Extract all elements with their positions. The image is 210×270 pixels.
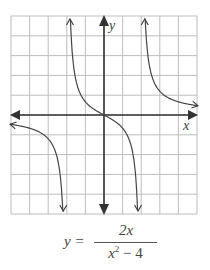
formula-numerator: 2x — [106, 222, 146, 239]
curve-branch-1 — [10, 124, 63, 211]
y-axis-label: y — [107, 18, 116, 33]
y-axis-down-arrow-icon — [99, 204, 109, 215]
graph: y x — [0, 0, 210, 222]
curve-arrow-icon — [141, 19, 148, 25]
curve-branch-3 — [145, 19, 198, 106]
curve-arrow-icon — [60, 205, 67, 211]
denominator-rest: − 4 — [119, 245, 142, 261]
fraction-bar — [94, 242, 157, 243]
y-axis-up-arrow-icon — [99, 15, 109, 26]
function-formula: y = 2x x2 − 4 — [64, 222, 154, 262]
formula-lhs: y = — [64, 233, 85, 250]
denominator-base: x — [108, 245, 115, 261]
formula-denominator: x2 − 4 — [94, 244, 157, 262]
x-axis-label: x — [182, 118, 190, 133]
